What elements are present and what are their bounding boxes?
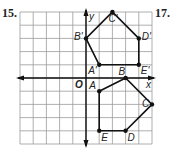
vertex-label: C <box>142 98 150 109</box>
vertex-label: A' <box>87 65 98 76</box>
vertex-label: C' <box>108 13 118 24</box>
vertex-label: A <box>88 80 96 91</box>
origin-label: O <box>75 79 83 90</box>
vertex-label: B <box>119 66 126 77</box>
vertex-label: E' <box>141 65 151 76</box>
vertex-label: B' <box>74 31 84 42</box>
vertex-point <box>97 89 101 93</box>
y-axis-label: y <box>88 11 95 22</box>
vertex-point <box>137 36 141 40</box>
vertex-point <box>84 36 88 40</box>
vertex-label: E <box>101 132 108 143</box>
vertex-point <box>97 63 101 67</box>
vertex-point <box>150 102 154 106</box>
x-axis-label: x <box>145 79 152 90</box>
vertex-label: D <box>128 132 135 143</box>
vertex-label: D' <box>142 31 152 42</box>
coordinate-graph: yxOA'B'C'D'E'ABCDE <box>0 0 174 152</box>
